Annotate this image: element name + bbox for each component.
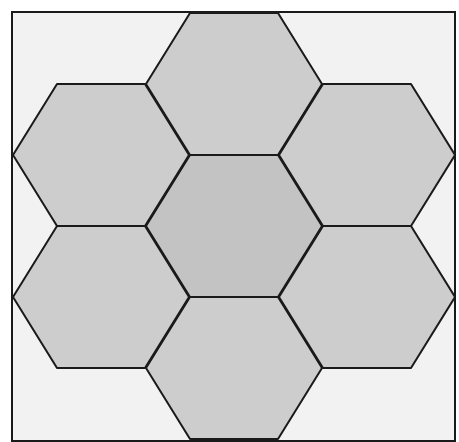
hexagon-diagram-svg: [0, 0, 459, 442]
hexagon-quilt-diagram: [0, 0, 459, 442]
